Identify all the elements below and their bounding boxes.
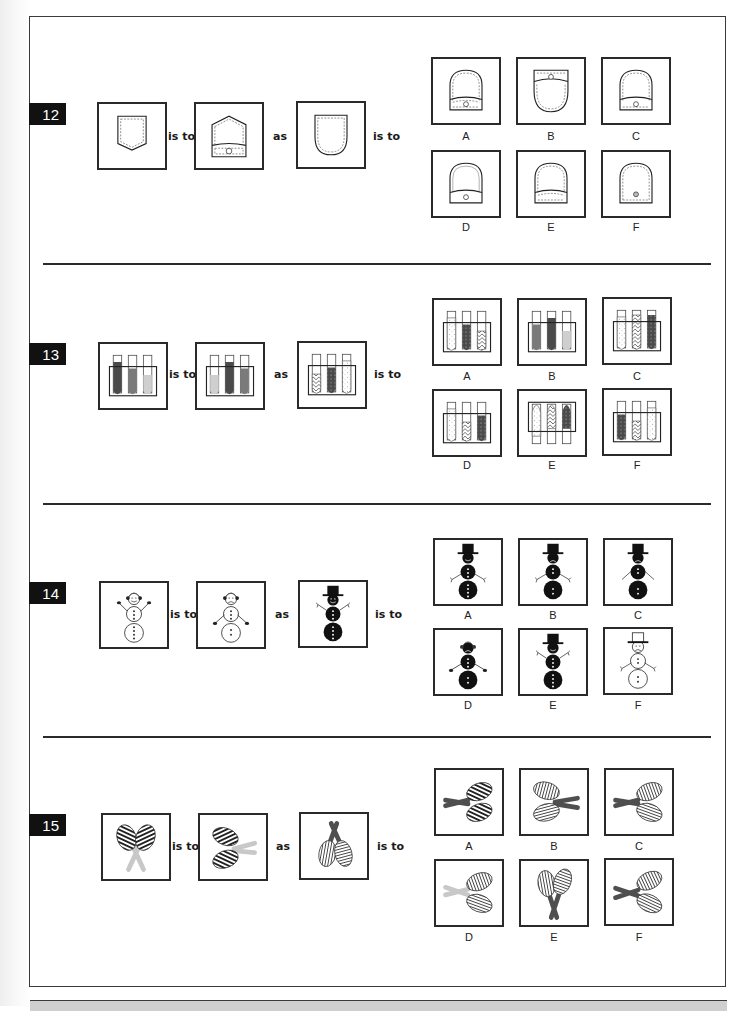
- answer-option-e[interactable]: [518, 628, 588, 696]
- answer-option-b[interactable]: [516, 57, 586, 125]
- prompt-image-pointed-pocket: [97, 102, 167, 170]
- answer-option-e[interactable]: [519, 859, 589, 927]
- connector-is-to: is to: [168, 130, 195, 143]
- connector-as: as: [273, 130, 287, 143]
- option-label: C: [604, 840, 674, 852]
- answer-option-f[interactable]: [603, 627, 673, 695]
- answer-option-b[interactable]: [518, 538, 588, 606]
- snowman-icon: [101, 583, 167, 647]
- answer-option-c[interactable]: [603, 538, 673, 606]
- option-label: A: [433, 609, 503, 621]
- option-label: B: [519, 840, 589, 852]
- question-number-badge: 15: [29, 814, 66, 836]
- connector-is-to: is to: [170, 608, 197, 621]
- connector-is-to: is to: [377, 840, 404, 853]
- option-label: D: [431, 221, 501, 233]
- option-label: D: [433, 699, 503, 711]
- answer-option-c[interactable]: [604, 768, 674, 836]
- prompt-image-black-snowman: [298, 580, 368, 648]
- drumstick-icon: [103, 815, 169, 879]
- option-label: E: [518, 699, 588, 711]
- connector-is-to: is to: [374, 368, 401, 381]
- pocket-rounded-icon: [298, 103, 364, 167]
- prompt-image-test-tubes-1: [98, 342, 168, 410]
- page-edge-shadow: [0, 0, 30, 1006]
- connector-is-to: is to: [373, 130, 400, 143]
- answer-option-e[interactable]: [516, 150, 586, 218]
- answer-option-c[interactable]: [601, 57, 671, 125]
- answer-option-f[interactable]: [601, 150, 671, 218]
- option-label: F: [602, 459, 672, 471]
- option-label: B: [516, 130, 586, 142]
- drumstick-icon: [200, 815, 266, 879]
- section-divider: [43, 263, 711, 265]
- question-number-badge: 14: [29, 582, 66, 604]
- snowman-icon: [198, 583, 264, 647]
- connector-is-to: is to: [169, 368, 196, 381]
- answer-option-d[interactable]: [434, 859, 504, 927]
- prompt-image-pocket-with-flap: [194, 102, 264, 170]
- prompt-image-rounded-pocket: [296, 101, 366, 169]
- option-label: E: [517, 459, 587, 471]
- snowman-icon: [300, 582, 366, 646]
- answer-option-a[interactable]: [433, 538, 503, 606]
- answer-option-d[interactable]: [431, 150, 501, 218]
- prompt-image-test-tubes-3: [297, 341, 367, 409]
- connector-as: as: [275, 608, 289, 621]
- test-tube-rack-icon: [197, 344, 263, 408]
- answer-option-c[interactable]: [602, 297, 672, 365]
- pocket-icon: [99, 104, 165, 168]
- answer-option-b[interactable]: [517, 298, 587, 366]
- answer-option-a[interactable]: [434, 768, 504, 836]
- prompt-image-snowman-happy: [99, 581, 169, 649]
- prompt-image-test-tubes-2: [195, 342, 265, 410]
- answer-option-f[interactable]: [602, 388, 672, 456]
- prompt-image-drumsticks-2: [198, 813, 268, 881]
- option-label: A: [432, 370, 502, 382]
- option-label: C: [602, 370, 672, 382]
- connector-as: as: [276, 840, 290, 853]
- prompt-image-snowman-sad: [196, 581, 266, 649]
- connector-as: as: [274, 368, 288, 381]
- section-divider: [43, 736, 711, 738]
- option-label: C: [603, 609, 673, 621]
- question-number-badge: 12: [29, 103, 66, 125]
- option-label: D: [434, 931, 504, 943]
- option-label: D: [432, 459, 502, 471]
- option-label: F: [603, 699, 673, 711]
- option-label: A: [431, 130, 501, 142]
- answer-option-a[interactable]: [431, 57, 501, 125]
- answer-option-f[interactable]: [604, 858, 674, 926]
- question-number-badge: 13: [29, 343, 66, 365]
- drumstick-icon: [301, 814, 367, 878]
- option-label: B: [518, 609, 588, 621]
- answer-option-d[interactable]: [432, 389, 502, 457]
- section-divider: [43, 503, 711, 505]
- option-label: E: [516, 221, 586, 233]
- test-tube-rack-icon: [100, 344, 166, 408]
- answer-option-a[interactable]: [432, 298, 502, 366]
- test-tube-rack-icon: [299, 343, 365, 407]
- option-label: C: [601, 130, 671, 142]
- connector-is-to: is to: [172, 840, 199, 853]
- answer-option-b[interactable]: [519, 768, 589, 836]
- connector-is-to: is to: [375, 608, 402, 621]
- footer-bar: [30, 1000, 727, 1011]
- prompt-image-drumsticks-3: [299, 812, 369, 880]
- option-label: E: [519, 931, 589, 943]
- answer-option-e[interactable]: [517, 389, 587, 457]
- option-label: F: [601, 221, 671, 233]
- option-label: B: [517, 370, 587, 382]
- pocket-flap-button-icon: [196, 104, 262, 168]
- option-label: F: [604, 931, 674, 943]
- answer-option-d[interactable]: [433, 628, 503, 696]
- option-label: A: [434, 840, 504, 852]
- prompt-image-drumsticks-1: [101, 813, 171, 881]
